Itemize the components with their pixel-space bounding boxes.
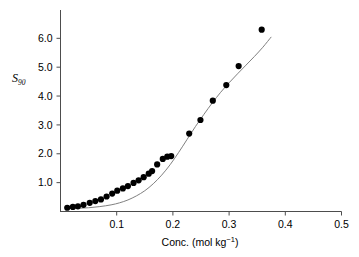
data-point [168,153,174,159]
data-point [141,174,147,180]
y-tick-label: 1.0 [38,176,53,188]
data-point [98,196,104,202]
data-point [149,168,155,174]
data-point [154,161,160,167]
y-tick-label: 6.0 [38,32,53,44]
figure-container: 1.02.03.04.05.06.0 0.10.20.30.40.5 S90 C… [0,0,359,257]
data-point [103,193,109,199]
data-point [210,98,216,104]
y-tick-label: 3.0 [38,119,53,131]
data-point [114,188,120,194]
data-point [259,27,265,33]
scatter-plot: 1.02.03.04.05.06.0 0.10.20.30.40.5 S90 C… [0,0,359,257]
x-tick-label: 0.1 [109,218,124,230]
data-point [223,82,229,88]
data-point [80,202,86,208]
data-point [64,205,70,211]
x-tick-label: 0.4 [278,218,293,230]
data-point [236,63,242,69]
x-tick-label: 0.5 [334,218,349,230]
data-point [186,130,192,136]
x-tick-label: 0.3 [222,218,237,230]
y-tick-label: 2.0 [38,147,53,159]
data-point [75,203,81,209]
data-point [87,200,93,206]
x-tick-label: 0.2 [166,218,181,230]
data-point [92,198,98,204]
y-tick-label: 4.0 [38,90,53,102]
y-tick-label: 5.0 [38,61,53,73]
data-point [197,117,203,123]
data-point [125,183,131,189]
